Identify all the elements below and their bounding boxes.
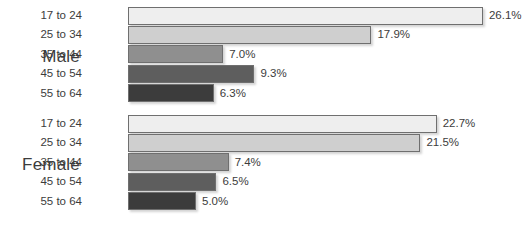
bar-track: 5.0%	[128, 192, 525, 211]
bar-row: 55 to 645.0%	[0, 192, 525, 211]
bar[interactable]	[128, 115, 437, 133]
bar-track: 6.3%	[128, 84, 525, 103]
bar-category-label: 17 to 24	[40, 6, 82, 25]
bar-rows-female: 17 to 2422.7%25 to 3421.5%35 to 447.4%45…	[0, 114, 525, 211]
bar-value-label: 6.5%	[216, 172, 248, 191]
grouped-bar-chart: Male 17 to 2426.1%25 to 3417.9%35 to 447…	[0, 0, 525, 228]
bar[interactable]	[128, 173, 216, 191]
bar-track: 22.7%	[128, 114, 525, 133]
bar-value-label: 22.7%	[437, 114, 476, 133]
bar-row: 17 to 2426.1%	[0, 6, 525, 25]
bar-value-label: 21.5%	[420, 133, 459, 152]
bar-row: 45 to 546.5%	[0, 172, 525, 191]
bar-value-label: 7.0%	[223, 45, 255, 64]
bar[interactable]	[128, 65, 254, 83]
bar-value-label: 5.0%	[196, 192, 228, 211]
bar-row: 55 to 646.3%	[0, 84, 525, 103]
chart-group-female: Female 17 to 2422.7%25 to 3421.5%35 to 4…	[0, 114, 525, 222]
bar-track: 17.9%	[128, 25, 525, 44]
bar-category-label: 25 to 34	[40, 133, 82, 152]
bar[interactable]	[128, 84, 214, 102]
bar-row: 17 to 2422.7%	[0, 114, 525, 133]
bar-track: 21.5%	[128, 133, 525, 152]
bar-row: 45 to 549.3%	[0, 64, 525, 83]
bar-row: 25 to 3417.9%	[0, 25, 525, 44]
bar-rows-male: 17 to 2426.1%25 to 3417.9%35 to 447.0%45…	[0, 6, 525, 103]
bar-row: 35 to 447.4%	[0, 153, 525, 172]
bar-category-label: 25 to 34	[40, 25, 82, 44]
bar-category-label: 55 to 64	[40, 84, 82, 103]
bar-value-label: 9.3%	[254, 64, 286, 83]
bar-track: 26.1%	[128, 6, 525, 25]
bar-value-label: 26.1%	[483, 6, 522, 25]
bar[interactable]	[128, 45, 223, 63]
chart-group-male: Male 17 to 2426.1%25 to 3417.9%35 to 447…	[0, 6, 525, 114]
bar-category-label: 45 to 54	[40, 64, 82, 83]
bar-track: 6.5%	[128, 172, 525, 191]
bar-category-label: 55 to 64	[40, 192, 82, 211]
bar[interactable]	[128, 192, 196, 210]
bar-row: 35 to 447.0%	[0, 45, 525, 64]
bar[interactable]	[128, 26, 371, 44]
bar[interactable]	[128, 134, 420, 152]
bar-value-label: 6.3%	[214, 84, 246, 103]
bar-category-label: 35 to 44	[40, 153, 82, 172]
bar-category-label: 17 to 24	[40, 114, 82, 133]
bar-track: 7.0%	[128, 45, 525, 64]
bar-category-label: 45 to 54	[40, 172, 82, 191]
bar[interactable]	[128, 153, 229, 171]
bar-track: 9.3%	[128, 64, 525, 83]
bar-category-label: 35 to 44	[40, 45, 82, 64]
bar-row: 25 to 3421.5%	[0, 133, 525, 152]
bar-track: 7.4%	[128, 153, 525, 172]
bar[interactable]	[128, 7, 483, 25]
bar-value-label: 17.9%	[371, 25, 410, 44]
bar-value-label: 7.4%	[229, 153, 261, 172]
